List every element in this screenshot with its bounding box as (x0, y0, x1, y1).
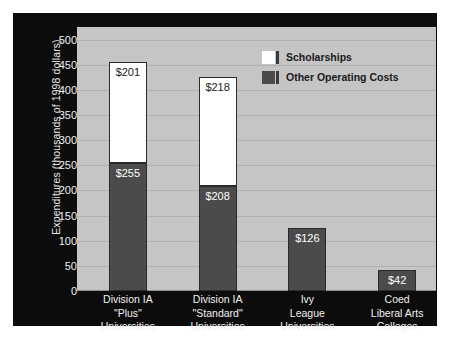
y-axis-tick-0: 0 (35, 285, 77, 297)
y-axis-tick-100: 100 (35, 235, 77, 247)
bar-segment[interactable]: $42 (378, 270, 416, 291)
y-axis-tick-labels: 050100150200250300350400450500 (35, 13, 77, 326)
bar-value-label: $218 (200, 81, 236, 93)
legend-divider (276, 71, 279, 84)
y-axis-tick-400: 400 (35, 84, 77, 96)
bar-segment[interactable]: $201 (109, 62, 147, 163)
bar-group[interactable]: $208$218 (199, 77, 237, 291)
legend-swatch-icon (262, 71, 275, 84)
bar-segment[interactable]: $126 (288, 228, 326, 291)
y-axis-tick-50: 50 (35, 260, 77, 272)
bar-group[interactable]: $126 (288, 228, 326, 291)
bar-value-label: $208 (200, 190, 236, 202)
y-axis-tick-500: 500 (35, 34, 77, 46)
bar-value-label: $126 (289, 232, 325, 244)
y-axis-tick-200: 200 (35, 184, 77, 196)
x-axis-category-4: CoedLiberal ArtsColleges (342, 293, 452, 334)
bar-value-label: $42 (379, 274, 415, 286)
bar-group[interactable]: $42 (378, 270, 416, 291)
bar-group[interactable]: $255$201 (109, 62, 147, 291)
bar-value-label: $255 (110, 167, 146, 179)
bar-value-label: $201 (110, 66, 146, 78)
legend-label: Scholarships (286, 51, 352, 63)
y-axis-tick-450: 450 (35, 59, 77, 71)
y-axis-tick-350: 350 (35, 109, 77, 121)
legend-swatch-icon (262, 51, 275, 64)
bar-segment[interactable]: $255 (109, 163, 147, 291)
chart-figure: Expenditures (thousands of 1998 dollars)… (0, 0, 453, 345)
bar-segment[interactable]: $208 (199, 186, 237, 291)
legend-divider (276, 51, 279, 64)
chart-legend: ScholarshipsOther Operating Costs (262, 49, 399, 89)
x-axis-category-labels: Division IA"Plus"UniversitiesDivision IA… (77, 293, 436, 341)
y-axis-tick-300: 300 (35, 134, 77, 146)
y-axis-tick-150: 150 (35, 210, 77, 222)
legend-label: Other Operating Costs (286, 71, 399, 83)
bar-segment[interactable]: $218 (199, 77, 237, 187)
legend-item[interactable]: Other Operating Costs (262, 69, 399, 85)
gridline-500 (77, 40, 436, 41)
y-axis-tick-250: 250 (35, 159, 77, 171)
chart-panel: Expenditures (thousands of 1998 dollars)… (13, 13, 437, 326)
legend-item[interactable]: Scholarships (262, 49, 399, 65)
